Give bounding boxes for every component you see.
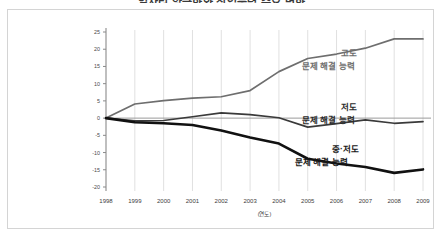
y-tick-label: 0 xyxy=(97,115,100,121)
page-title: 일자리 양극화와 직업능력 수요 변화 xyxy=(0,0,443,3)
plot-frame: 2520151050-5-10-15-20 199819992000200120… xyxy=(7,9,434,229)
y-tick-label: -15 xyxy=(92,167,100,173)
y-tick-label: 15 xyxy=(94,63,100,69)
x-tick-label: 2001 xyxy=(186,198,200,204)
x-tick-label: 2009 xyxy=(416,198,430,204)
x-tick-label: 2004 xyxy=(272,198,286,204)
y-tick-label: -5 xyxy=(95,132,100,138)
x-tick-label: 2007 xyxy=(359,198,373,204)
x-tick-label: 1998 xyxy=(99,198,113,204)
y-tick-label: 20 xyxy=(94,46,100,52)
y-tick-label: 5 xyxy=(97,98,100,104)
line-chart-svg: 2520151050-5-10-15-20 199819992000200120… xyxy=(8,10,433,228)
x-axis-title: (연도) xyxy=(258,210,272,217)
x-tick-label: 2005 xyxy=(301,198,315,204)
series-lines xyxy=(106,39,423,173)
x-tick-label: 2000 xyxy=(157,198,171,204)
gridlines xyxy=(135,30,423,191)
x-tick-label: 2006 xyxy=(330,198,344,204)
y-tick-label: 25 xyxy=(94,29,100,35)
y-tick-label: 10 xyxy=(94,81,100,87)
series-line-high xyxy=(106,39,423,118)
y-axis: 2520151050-5-10-15-20 xyxy=(92,28,106,191)
y-tick-label: -20 xyxy=(92,184,100,190)
series-line-mid-low xyxy=(106,118,423,173)
x-tick-label: 2008 xyxy=(388,198,402,204)
x-tick-label: 2003 xyxy=(243,198,257,204)
chart-figure: 일자리 양극화와 직업능력 수요 변화 2520151050-5-10-15-2… xyxy=(0,0,443,238)
x-tick-label: 1999 xyxy=(128,198,142,204)
y-tick-label: -10 xyxy=(92,150,100,156)
x-axis-tick-labels: 1998199920002001200220032004200520062007… xyxy=(99,198,430,204)
x-tick-label: 2002 xyxy=(215,198,229,204)
series-line-low xyxy=(106,113,423,127)
